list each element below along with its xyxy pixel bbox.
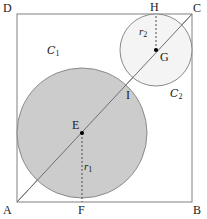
radius-label-r1: r1: [84, 161, 92, 174]
geometry-figure: D C A B H G E F I r1 r2 C1 C2: [0, 0, 207, 219]
vertex-label-c: C: [193, 2, 201, 14]
vertex-label-b: B: [193, 204, 201, 216]
vertex-label-d: D: [3, 2, 12, 14]
point-label-h: H: [150, 1, 159, 13]
point-label-e: E: [72, 119, 79, 131]
radius-label-r2: r2: [139, 26, 147, 39]
point-label-i: I: [126, 89, 130, 101]
radius-label-r1-sub: 1: [88, 165, 92, 174]
point-e-dot: [80, 131, 84, 135]
vertex-label-a: A: [3, 204, 12, 216]
point-label-f: F: [78, 204, 85, 216]
radius-label-r2-sub: 2: [143, 30, 147, 39]
figure-canvas: [0, 0, 207, 219]
circle-label-c1: C1: [47, 45, 59, 58]
circle-label-c2: C2: [170, 88, 182, 101]
point-label-g: G: [160, 51, 169, 63]
circle-label-c1-sub: 1: [55, 49, 59, 58]
circle-label-c2-sub: 2: [178, 92, 182, 101]
point-g-dot: [154, 48, 158, 52]
